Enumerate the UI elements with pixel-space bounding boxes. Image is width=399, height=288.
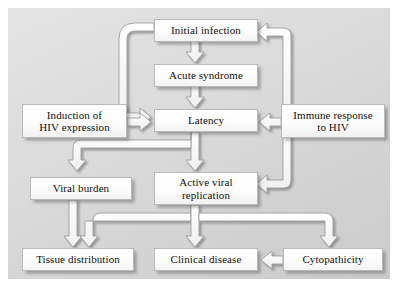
- arrow-immune-to-latency: [259, 113, 281, 131]
- node-label-clinical-disease: Clinical disease: [168, 253, 245, 266]
- figure-container: Initial infection Acute syndrome Latency…: [0, 0, 399, 288]
- node-label-active-viral-replication: Active viral replication: [176, 176, 235, 201]
- arrow-latency-to-replication: [186, 132, 204, 171]
- arrow-layer: [8, 8, 390, 279]
- node-label-latency: Latency: [185, 114, 227, 127]
- node-acute-syndrome[interactable]: Acute syndrome: [154, 64, 258, 87]
- node-label-viral-burden: Viral burden: [50, 182, 112, 195]
- node-active-viral-replication[interactable]: Active viral replication: [154, 172, 258, 205]
- node-label-immune-response-to-hiv: Immune response to HIV: [290, 109, 375, 134]
- node-latency[interactable]: Latency: [154, 109, 258, 132]
- node-induction-hiv-expression[interactable]: Induction of HIV expression: [22, 104, 127, 138]
- node-label-initial-infection: Initial infection: [168, 24, 244, 37]
- arrow-viral-burden-to-tissue: [64, 200, 82, 247]
- arrow-replication-to-tissue: [80, 205, 191, 247]
- arrow-replication-to-clinical: [186, 205, 204, 247]
- node-clinical-disease[interactable]: Clinical disease: [154, 248, 258, 271]
- node-immune-response-to-hiv[interactable]: Immune response to HIV: [281, 104, 385, 138]
- node-viral-burden[interactable]: Viral burden: [30, 177, 132, 200]
- diagram-canvas: Initial infection Acute syndrome Latency…: [8, 8, 390, 279]
- node-initial-infection[interactable]: Initial infection: [154, 19, 258, 42]
- node-tissue-distribution[interactable]: Tissue distribution: [22, 248, 134, 271]
- arrow-replication-to-cyto: [199, 213, 338, 247]
- node-label-tissue-distribution: Tissue distribution: [33, 253, 123, 266]
- node-label-induction-hiv-expression: Induction of HIV expression: [36, 109, 113, 134]
- node-cytopathicity[interactable]: Cytopathicity: [283, 248, 383, 271]
- arrow-cyto-to-clinical: [261, 251, 283, 269]
- node-label-cytopathicity: Cytopathicity: [299, 253, 366, 266]
- node-label-acute-syndrome: Acute syndrome: [166, 69, 246, 82]
